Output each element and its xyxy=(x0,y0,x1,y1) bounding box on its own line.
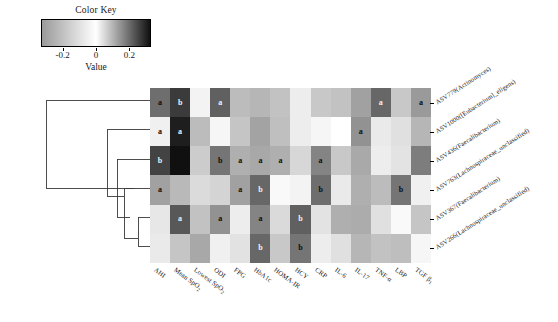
heatmap-cell xyxy=(190,205,210,234)
heatmap-cell: a xyxy=(411,88,431,117)
heatmap-cell xyxy=(371,175,391,204)
significance-marker: b xyxy=(399,186,403,194)
heatmap-cell xyxy=(331,234,351,263)
heatmap-cell xyxy=(190,117,210,146)
heatmap-cell xyxy=(311,205,331,234)
significance-marker: b xyxy=(298,215,302,223)
column-label: HbA1c xyxy=(253,266,273,284)
row-label: ASV1000([Eubacterium]_eligens) xyxy=(434,77,517,134)
heatmap-cell: a xyxy=(230,175,250,204)
color-key-tick-label: 0 xyxy=(94,50,99,60)
significance-marker: a xyxy=(178,215,182,223)
significance-marker: a xyxy=(258,215,262,223)
column-label: FPG xyxy=(233,266,247,279)
heatmap-cell xyxy=(270,205,290,234)
column-label: AHI xyxy=(153,266,167,279)
heatmap-cell: a xyxy=(210,205,230,234)
heatmap-cell: a xyxy=(150,117,170,146)
color-key-title: Color Key xyxy=(38,4,154,17)
heatmap-cell xyxy=(351,146,371,175)
heatmap-cell: a xyxy=(250,146,270,175)
heatmap-cell xyxy=(351,88,371,117)
heatmap-cell xyxy=(311,117,331,146)
heatmap-cell: b xyxy=(210,146,230,175)
heatmap-cell xyxy=(331,175,351,204)
heatmap-cell xyxy=(190,88,210,117)
row-label-axis: ASV779(Actinomyces)ASV1000([Eubacterium]… xyxy=(430,88,558,268)
color-key-axis-label: Value xyxy=(38,62,154,72)
heatmap-cell xyxy=(311,88,331,117)
significance-marker: b xyxy=(258,244,262,252)
heatmap-cell xyxy=(411,146,431,175)
color-key-tick-axis: -0.200.2 xyxy=(41,48,151,60)
heatmap-cell xyxy=(270,175,290,204)
heatmap-cell xyxy=(290,175,310,204)
significance-marker: b xyxy=(318,186,322,194)
heatmap-grid: abaaaaaabbaaaaaabbbaaabbb xyxy=(150,88,431,263)
heatmap-cell xyxy=(190,175,210,204)
significance-marker: a xyxy=(278,157,282,165)
heatmap-cell: b xyxy=(311,175,331,204)
heatmap-cell: a xyxy=(250,205,270,234)
heatmap-cell xyxy=(371,117,391,146)
heatmap-cell xyxy=(351,234,371,263)
heatmap-cell xyxy=(150,234,170,263)
heatmap-cell xyxy=(290,117,310,146)
heatmap-cell: a xyxy=(170,205,190,234)
heatmap-cell: a xyxy=(371,88,391,117)
heatmap-cell xyxy=(411,205,431,234)
heatmap-cell: a xyxy=(230,146,250,175)
row-tickmark xyxy=(430,248,434,249)
heatmap-cell xyxy=(371,234,391,263)
heatmap-cell xyxy=(270,117,290,146)
row-label: ASV266(Lachnospiraceae_unclassified) xyxy=(434,185,530,251)
significance-marker: a xyxy=(218,99,222,107)
heatmap-cell xyxy=(391,234,411,263)
row-tickmark xyxy=(430,132,434,133)
significance-marker: a xyxy=(178,128,182,136)
heatmap-cell xyxy=(391,146,411,175)
significance-marker: a xyxy=(238,186,242,194)
heatmap-cell: b xyxy=(170,88,190,117)
column-label: HCY xyxy=(293,266,309,280)
row-tickmark xyxy=(430,103,434,104)
significance-marker: a xyxy=(238,157,242,165)
heatmap-cell: a xyxy=(351,117,371,146)
heatmap-cell xyxy=(230,205,250,234)
column-label: TNF-α xyxy=(374,266,394,283)
heatmap-cell: a xyxy=(150,88,170,117)
heatmap-cell: a xyxy=(150,175,170,204)
heatmap-cell xyxy=(170,175,190,204)
heatmap-cell xyxy=(210,175,230,204)
heatmap-cell: b xyxy=(250,234,270,263)
column-label: IL-17 xyxy=(354,266,371,281)
significance-marker: b xyxy=(218,157,222,165)
significance-marker: a xyxy=(218,215,222,223)
color-key-tick-label: -0.2 xyxy=(56,50,70,60)
heatmap-cell: b xyxy=(290,205,310,234)
heatmap-cell xyxy=(290,88,310,117)
heatmap-cell xyxy=(150,205,170,234)
heatmap-cell xyxy=(230,234,250,263)
heatmap-cell xyxy=(411,117,431,146)
row-dendrogram xyxy=(12,86,152,266)
heatmap-cell xyxy=(311,234,331,263)
heatmap-cell: b xyxy=(250,175,270,204)
heatmap-cell: b xyxy=(150,146,170,175)
significance-marker: a xyxy=(359,128,363,136)
significance-marker: a xyxy=(158,186,162,194)
heatmap-cell xyxy=(270,88,290,117)
significance-marker: b xyxy=(298,244,302,252)
row-label: ASV763(Lachnospiraceae_unclassified) xyxy=(434,127,530,193)
heatmap-cell xyxy=(190,146,210,175)
heatmap-cell xyxy=(411,175,431,204)
significance-marker: a xyxy=(158,128,162,136)
heatmap-cell: b xyxy=(290,234,310,263)
heatmap-cell xyxy=(290,146,310,175)
row-tickmark xyxy=(430,190,434,191)
row-tickmark xyxy=(430,161,434,162)
heatmap-cell xyxy=(210,234,230,263)
heatmap-cell xyxy=(411,234,431,263)
column-label: IL-6 xyxy=(334,266,348,279)
row-tickmark xyxy=(430,219,434,220)
